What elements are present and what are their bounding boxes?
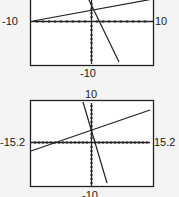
graph-2-ymin-label: -10 <box>82 190 98 197</box>
graph-2-xmax-label: 15.2 <box>154 137 175 148</box>
graph-2-xmin-label: -15.2 <box>0 137 25 148</box>
graph-2-ymax-label: 10 <box>85 89 97 100</box>
